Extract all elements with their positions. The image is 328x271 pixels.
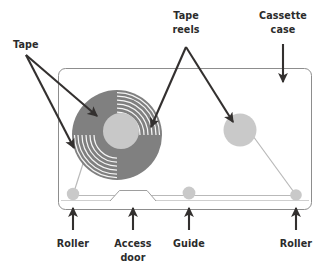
label-cassette-case-line2: case: [271, 24, 296, 35]
tape-reel-right: [224, 114, 257, 147]
tape-reel-left: [72, 90, 162, 180]
roller-left-circle: [67, 188, 79, 200]
label-access-door-line1: Access: [114, 238, 152, 249]
label-cassette-case-line1: Cassette: [259, 10, 307, 21]
label-tape: Tape: [13, 39, 39, 50]
tape-reel-right-hub: [224, 114, 257, 147]
callout-arrows-bottom: [73, 208, 296, 230]
label-tape-reels-line1: Tape: [173, 10, 199, 21]
cassette-diagram: Tape Tape reels Cassette case Roller Acc…: [0, 0, 328, 271]
label-tape-reels-line2: reels: [172, 24, 199, 35]
label-access-door-line2: door: [120, 252, 145, 263]
guide-circle: [183, 187, 196, 200]
label-roller-left: Roller: [57, 238, 90, 249]
cassette-diagram-canvas: Tape Tape reels Cassette case Roller Acc…: [0, 0, 328, 271]
roller-right-circle: [290, 189, 302, 201]
label-roller-right: Roller: [280, 238, 313, 249]
label-guide: Guide: [173, 238, 205, 249]
tape-reel-left-hub: [103, 113, 139, 149]
